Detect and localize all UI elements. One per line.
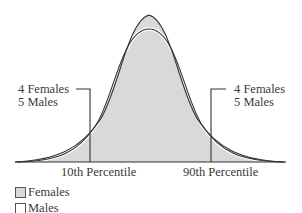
p90-axis-label: 90th Percentile <box>183 166 258 179</box>
males-swatch-icon <box>15 203 26 213</box>
females-swatch-icon <box>15 187 26 198</box>
legend-label-females: Females <box>28 185 70 200</box>
legend-label-males: Males <box>28 201 59 213</box>
left-annotation-males: 5 Males <box>18 96 58 109</box>
legend-item-females: Females <box>15 185 70 200</box>
p10-axis-label: 10th Percentile <box>61 166 136 179</box>
legend-item-males: Males <box>15 201 59 213</box>
right-annotation-males: 5 Males <box>234 96 274 109</box>
